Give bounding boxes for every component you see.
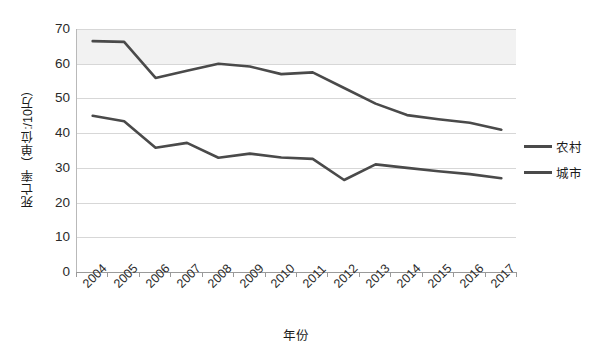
legend-label: 城市	[556, 163, 582, 182]
x-axis-tick	[76, 272, 77, 277]
y-axis-tick-labels: 010203040506070	[38, 0, 70, 358]
legend-line-icon	[524, 171, 552, 174]
legend-item[interactable]: 城市	[524, 159, 602, 185]
y-axis-tick-label: 60	[38, 57, 70, 71]
x-axis-tick	[296, 272, 297, 277]
y-axis-title-text: 死亡率（单位:/10万）	[18, 83, 37, 208]
y-axis-tick-label: 30	[38, 161, 70, 175]
y-axis-tick-label: 50	[38, 91, 70, 105]
x-axis-tick	[516, 272, 517, 277]
legend-line-icon	[524, 145, 552, 148]
y-axis-tick-label: 40	[38, 126, 70, 140]
y-axis-tick-label: 10	[38, 230, 70, 244]
x-axis-tick	[453, 272, 454, 277]
plot-area	[76, 29, 516, 272]
chart-legend: 农村城市	[524, 133, 602, 185]
series-lines	[77, 29, 517, 272]
legend-item[interactable]: 农村	[524, 133, 602, 159]
y-axis-tick-label: 0	[38, 265, 70, 279]
y-axis-tick-label: 20	[38, 196, 70, 210]
x-axis-tick	[233, 272, 234, 277]
y-axis-tick-label: 70	[38, 22, 70, 36]
x-axis-title: 年份	[0, 325, 592, 344]
legend-label: 农村	[556, 137, 582, 156]
series-line	[93, 41, 502, 130]
series-line	[93, 116, 502, 180]
line-chart: 死亡率（单位:/10万） 010203040506070 20042005200…	[0, 0, 605, 358]
